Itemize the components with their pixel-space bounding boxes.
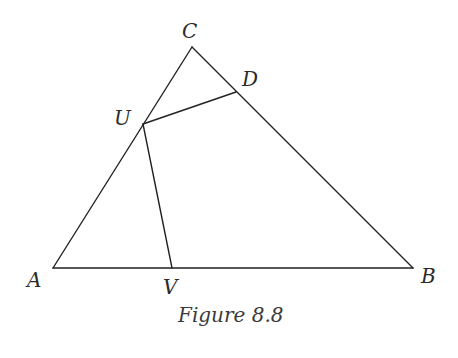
label-v: V — [163, 275, 180, 299]
label-b: B — [420, 264, 436, 288]
figure-canvas: C D U A V B Figure 8.8 — [0, 0, 458, 358]
label-d: D — [241, 67, 258, 91]
label-u: U — [114, 106, 132, 130]
figure-caption: Figure 8.8 — [177, 303, 284, 327]
segment-ud — [143, 92, 236, 124]
segment-uv — [143, 124, 172, 268]
segment-ca — [53, 47, 192, 268]
label-c: C — [182, 19, 197, 43]
segment-bc — [192, 47, 413, 268]
label-a: A — [25, 268, 41, 292]
triangle-diagram: C D U A V B Figure 8.8 — [0, 0, 458, 358]
